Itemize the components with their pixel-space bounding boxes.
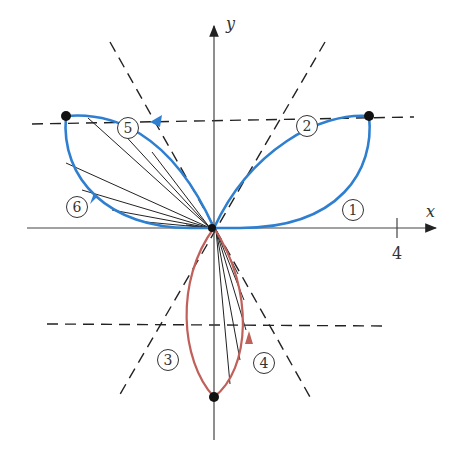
stage-label-4: 4 [253,352,275,374]
point-right-tip [364,111,374,121]
x-axis-label: x [426,202,435,221]
arrow-stage-5-icon [150,115,162,127]
stage-label-3: 3 [157,349,179,371]
x-tick-label-4: 4 [392,244,402,263]
stage-label-2: 2 [296,115,318,137]
dashed-line-120deg [119,42,325,396]
y-axis-label: y [226,14,235,33]
point-bottom-tip [209,392,219,402]
dashed-line-30deg [32,117,414,124]
axes [27,26,436,440]
left-petal-chords [66,118,210,228]
point-left-tip [61,111,71,121]
point-origin [208,224,216,232]
rose-curve-diagram [0,0,458,455]
stage-label-6: 6 [66,196,88,218]
dashed-line-150deg [47,324,385,326]
stage-label-5: 5 [117,117,139,139]
arrow-stage-4-icon [245,331,253,344]
bottom-petal-curve [187,228,243,397]
stage-label-1: 1 [342,199,364,221]
